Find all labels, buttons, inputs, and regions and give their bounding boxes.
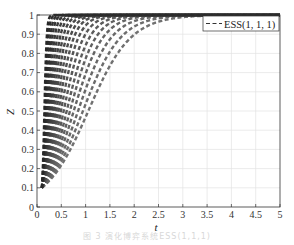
y-tick-label: 0.9 — [22, 29, 35, 40]
x-tick-label: 1.5 — [104, 209, 117, 220]
y-tick-label: 0.6 — [22, 86, 35, 97]
legend-entry: ESS(1, 1, 1) — [224, 19, 276, 31]
x-tick-label: 2 — [132, 209, 137, 220]
y-tick-label: 0.4 — [22, 125, 35, 136]
trajectory-curves — [42, 15, 280, 188]
x-tick-label: 2.5 — [152, 209, 165, 220]
figure-caption: 图 3 演化博弈系统ESS(1,1,1) — [0, 230, 294, 241]
y-tick-label: 0.5 — [22, 106, 35, 117]
chart: 00.511.522.533.544.5500.10.20.30.40.50.6… — [0, 0, 294, 245]
x-tick-label: 4 — [229, 209, 234, 220]
x-tick-label: 5 — [278, 209, 283, 220]
x-tick-label: 3.5 — [201, 209, 214, 220]
x-tick-label: 1 — [83, 209, 88, 220]
y-tick-label: 0.7 — [22, 67, 35, 78]
x-tick-label: 0 — [35, 209, 40, 220]
y-tick-label: 0.8 — [22, 48, 35, 59]
x-tick-label: 0.5 — [55, 209, 68, 220]
y-tick-label: 1 — [29, 10, 34, 21]
y-tick-label: 0.2 — [22, 163, 35, 174]
grid-lines — [37, 15, 280, 207]
legend: ESS(1, 1, 1) — [203, 16, 279, 31]
y-axis-label: Z — [4, 108, 16, 115]
axis-ticks: 00.511.522.533.544.5500.10.20.30.40.50.6… — [22, 10, 283, 221]
y-tick-label: 0.3 — [22, 144, 35, 155]
y-tick-label: 0.1 — [22, 182, 35, 193]
y-tick-label: 0 — [29, 202, 34, 213]
x-tick-label: 3 — [180, 209, 185, 220]
x-tick-label: 4.5 — [249, 209, 262, 220]
